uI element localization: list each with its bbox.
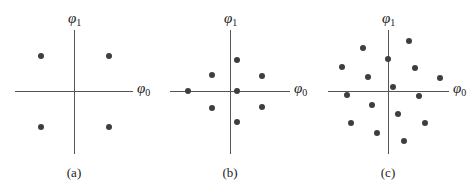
constellation-point [234, 88, 240, 94]
axis-label-phi1: φ1 [382, 10, 395, 28]
constellation-point [390, 84, 396, 90]
panel-caption: (c) [381, 165, 395, 181]
constellation-point [422, 120, 428, 126]
constellation-point [234, 57, 240, 63]
constellation-point [374, 130, 380, 136]
constellation-point [339, 64, 345, 70]
constellation-point [259, 73, 265, 79]
axis-label-phi0: φ0 [137, 80, 150, 98]
axis-label-phi0: φ0 [453, 80, 466, 98]
constellation-point [406, 38, 412, 44]
axis-phi1 [74, 30, 75, 154]
constellation-point [437, 75, 443, 81]
axis-label-phi1: φ1 [68, 10, 81, 28]
axis-label-phi1: φ1 [224, 10, 237, 28]
axis-phi1 [230, 30, 231, 154]
constellation-point [38, 124, 44, 130]
axis-label-phi0: φ0 [294, 80, 307, 98]
constellation-point [348, 120, 354, 126]
constellation-point [365, 74, 371, 80]
panel-caption: (a) [67, 165, 81, 181]
constellation-point [106, 124, 112, 130]
constellation-point [401, 138, 407, 144]
constellation-point [209, 105, 215, 111]
constellation-point [259, 104, 265, 110]
panel-caption: (b) [222, 165, 237, 181]
constellation-point [106, 53, 112, 59]
constellation-point [360, 45, 366, 51]
constellation-point [369, 102, 375, 108]
axis-phi1 [388, 30, 389, 154]
constellation-point [38, 53, 44, 59]
constellation-point [344, 92, 350, 98]
constellation-point [416, 93, 422, 99]
constellation-point [412, 65, 418, 71]
constellation-point [185, 88, 191, 94]
constellation-point [385, 56, 391, 62]
constellation-point [395, 111, 401, 117]
constellation-point [234, 119, 240, 125]
constellation-point [209, 72, 215, 78]
